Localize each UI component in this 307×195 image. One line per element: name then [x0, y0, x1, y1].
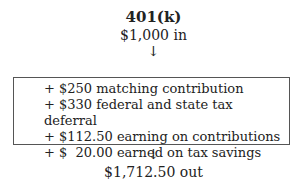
diagram-title: 401(k) — [0, 8, 307, 26]
input-amount: $1,000 in — [0, 27, 307, 43]
item-earnings: + $112.50 earning on contributions — [44, 129, 289, 145]
contributions-box: + $250 matching contribution + $330 fede… — [13, 77, 290, 145]
item-tax-deferral: + $330 federal and state tax deferral — [44, 97, 289, 129]
item-matching: + $250 matching contribution — [44, 81, 289, 97]
down-arrow-icon: ↓ — [0, 43, 307, 59]
output-amount: $1,712.50 out — [0, 164, 307, 180]
down-arrow-icon: ↓ — [0, 146, 307, 162]
